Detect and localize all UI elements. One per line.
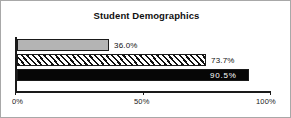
x-axis-label-50: 50%: [134, 97, 150, 106]
bar-value-label-3: 90.5%: [210, 71, 237, 80]
bar-value-label-2: 73.7%: [211, 56, 235, 65]
x-tick-0: [15, 91, 16, 95]
chart-container: Student Demographics 36.0% 73.7% 90.5% 0…: [0, 0, 291, 118]
bar-series-1[interactable]: [17, 39, 109, 51]
x-tick-50: [143, 91, 144, 95]
bar-row: 36.0%: [17, 39, 273, 51]
x-axis-label-100: 100%: [256, 97, 276, 106]
x-axis-label-0: 0%: [12, 97, 23, 106]
chart-title: Student Demographics: [1, 10, 291, 21]
bar-row: 73.7%: [17, 54, 273, 66]
bar-series-2[interactable]: [17, 54, 206, 66]
plot-area: 36.0% 73.7% 90.5%: [15, 37, 271, 93]
bar-row: 90.5%: [17, 69, 273, 81]
x-tick-100: [270, 91, 271, 95]
bar-value-label-1: 36.0%: [114, 41, 138, 50]
